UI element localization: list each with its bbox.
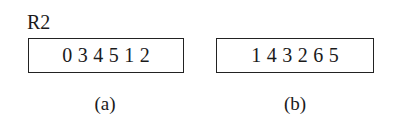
register-label: R2 <box>27 11 50 33</box>
cell-value: 5 <box>326 44 342 67</box>
cell-value: 2 <box>137 44 153 67</box>
cell-value: 0 <box>60 44 76 67</box>
cell-value: 4 <box>264 44 280 67</box>
caption-a: (a) <box>75 93 135 115</box>
cell-value: 3 <box>280 44 296 67</box>
cell-value: 1 <box>122 44 138 67</box>
register-box-b: 1 4 3 2 6 5 <box>216 38 374 73</box>
cell-value: 3 <box>75 44 91 67</box>
caption-b: (b) <box>265 93 325 115</box>
cell-value: 5 <box>106 44 122 67</box>
register-box-a: 0 3 4 5 1 2 <box>28 38 184 73</box>
cell-value: 2 <box>295 44 311 67</box>
cell-value: 6 <box>311 44 327 67</box>
cell-value: 4 <box>91 44 107 67</box>
cell-value: 1 <box>249 44 265 67</box>
